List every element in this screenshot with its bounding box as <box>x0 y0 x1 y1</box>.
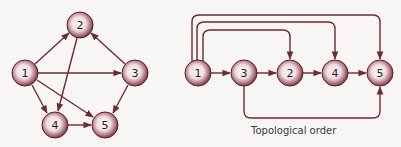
edge-1-2 <box>203 30 290 61</box>
left-node-1: 1 <box>12 60 38 86</box>
left-node-4: 4 <box>42 112 68 138</box>
right-node-4: 4 <box>322 60 348 86</box>
node-label: 4 <box>332 67 339 80</box>
right-graph: 1 3 2 4 5 Topological order <box>185 15 393 136</box>
node-label: 2 <box>77 19 84 32</box>
left-graph: 1 2 3 4 5 <box>12 12 148 138</box>
node-label: 5 <box>377 67 384 80</box>
edge-1-4 <box>32 85 47 113</box>
node-label: 2 <box>287 67 294 80</box>
caption: Topological order <box>250 125 337 136</box>
right-node-1: 1 <box>185 60 211 86</box>
node-label: 3 <box>241 67 248 80</box>
node-label: 1 <box>195 67 202 80</box>
node-label: 4 <box>52 119 59 132</box>
edge-3-5 <box>113 85 128 113</box>
left-node-2: 2 <box>67 12 93 38</box>
node-label: 5 <box>102 119 109 132</box>
edge-1-2 <box>35 33 69 64</box>
topological-sort-diagram: 1 2 3 4 5 <box>0 0 401 147</box>
node-label: 1 <box>22 67 29 80</box>
edge-1-4 <box>197 22 335 61</box>
edge-3-5 <box>244 86 380 118</box>
edge-3-2 <box>91 33 125 64</box>
right-node-2: 2 <box>277 60 303 86</box>
left-node-3: 3 <box>122 60 148 86</box>
left-node-5: 5 <box>92 112 118 138</box>
node-label: 3 <box>132 67 139 80</box>
left-edges <box>32 33 128 125</box>
right-node-5: 5 <box>367 60 393 86</box>
right-node-3: 3 <box>231 60 257 86</box>
